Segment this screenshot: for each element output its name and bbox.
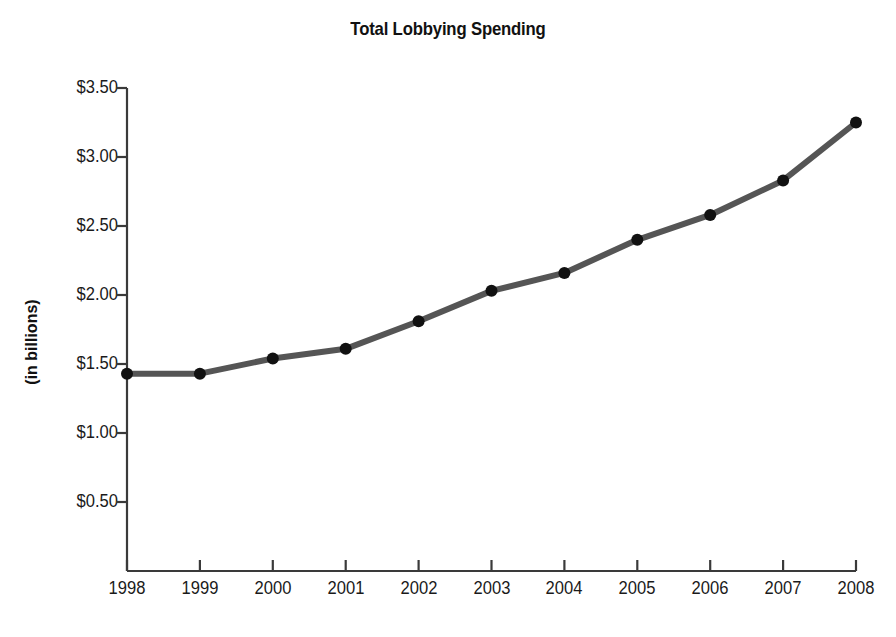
y-axis-tick-label: $1.00 [46,422,118,444]
axes [116,88,856,571]
plot-area [0,0,896,637]
data-point-marker [558,267,570,279]
data-point-marker [704,209,716,221]
y-axis-tick-label: $0.50 [46,491,118,513]
x-axis-tick-label: 2007 [751,578,815,599]
data-point-marker [631,234,643,246]
y-axis-tick-label: $2.50 [46,215,118,237]
x-axis-tick-label: 1999 [168,578,232,599]
y-axis-title: (in billions) [23,282,41,402]
data-series-line [127,123,856,374]
y-axis-tick-label-text: $3.50 [54,77,118,98]
data-point-marker [850,117,862,129]
data-point-marker [194,368,206,380]
y-axis-tick-label-text: $2.00 [54,284,118,305]
data-point-marker [777,174,789,186]
series-line [127,123,856,374]
x-axis-tick-label: 2003 [459,578,523,599]
data-point-marker [267,352,279,364]
y-axis-tick-label-text: $2.50 [54,215,118,236]
y-axis-tick-label-text: $1.00 [54,422,118,443]
chart-figure: Total Lobbying Spending (in billions) $0… [0,0,896,637]
x-axis-tick-label: 2005 [605,578,669,599]
data-point-marker [413,315,425,327]
y-axis-tick-label: $1.50 [46,353,118,375]
data-point-marker [340,343,352,355]
y-axis-tick-label: $2.00 [46,284,118,306]
x-axis-tick-label: 2002 [386,578,450,599]
x-axis-tick-label: 2006 [678,578,742,599]
chart-title: Total Lobbying Spending [54,18,842,40]
x-axis-tick-label: 2004 [532,578,596,599]
x-axis-tick-label: 2000 [241,578,305,599]
x-axis-tick-label: 1998 [95,578,159,599]
y-axis-tick-label-text: $3.00 [54,146,118,167]
y-axis-tick-label: $3.50 [46,77,118,99]
y-axis-tick-label-text: $1.50 [54,353,118,374]
y-axis-tick-label: $3.00 [46,146,118,168]
x-axis-tick-label: 2001 [313,578,377,599]
data-point-marker [121,368,133,380]
y-axis-tick-label-text: $0.50 [54,491,118,512]
data-point-marker [486,285,498,297]
data-point-markers [121,117,862,380]
x-axis-tick-label: 2008 [824,578,888,599]
